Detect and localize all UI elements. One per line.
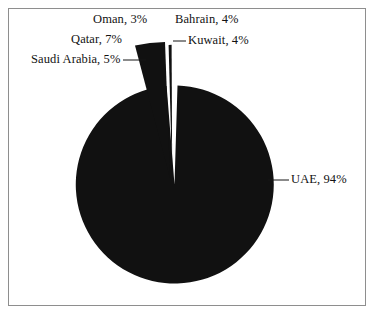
pie-slice-uae[interactable]: [76, 86, 274, 284]
pie-label-saudi-arabia: Saudi Arabia, 5%: [31, 53, 120, 66]
pie-label-kuwait: Kuwait, 4%: [188, 34, 249, 47]
pie-label-qatar: Qatar, 7%: [71, 33, 122, 46]
pie-label-oman: Oman, 3%: [93, 13, 147, 26]
pie-label-bahrain: Bahrain, 4%: [175, 13, 239, 26]
pie-chart-figure: Oman, 3% Bahrain, 4% Qatar, 7% Kuwait, 4…: [0, 0, 376, 316]
pie-label-uae: UAE, 94%: [291, 173, 347, 186]
pie-chart-plot-area: [0, 0, 376, 316]
